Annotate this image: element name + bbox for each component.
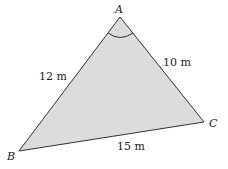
side-label-ab: 12 m <box>39 70 67 83</box>
triangle-diagram: A B C 12 m 10 m 15 m <box>0 0 228 169</box>
triangle-abc <box>19 17 204 151</box>
vertex-label-b: B <box>6 150 15 163</box>
side-label-bc: 15 m <box>117 140 145 153</box>
vertex-label-a: A <box>114 3 123 16</box>
side-label-ac: 10 m <box>163 56 191 69</box>
vertex-label-c: C <box>209 117 218 130</box>
